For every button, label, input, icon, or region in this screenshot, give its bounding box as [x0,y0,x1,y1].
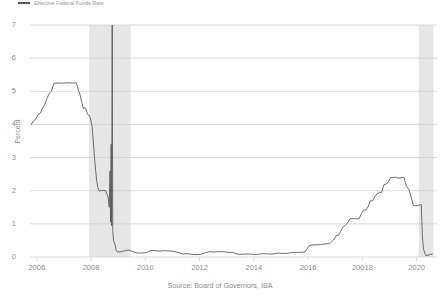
recession-band [419,25,434,257]
recession-band [89,25,131,257]
y-axis-tick-label: 5 [0,87,16,95]
y-axis-tick-label: 3 [0,154,16,162]
y-axis-tick-label: 4 [0,120,16,128]
y-axis-tick-label: 2 [0,187,16,195]
x-axis-tick-label: 2006 [28,263,45,272]
y-axis-tick-label: 0 [0,253,16,261]
chart-source-note: Source: Board of Governors, IBA [0,281,440,290]
y-axis-tick-label: 7 [0,21,16,29]
chart-plot-area [0,0,440,297]
chart-container: Effective Federal Funds Rate Percent 012… [0,0,440,297]
x-axis-tick-label: 20018 [352,263,373,272]
x-axis-tick-label: 2014 [246,263,263,272]
x-axis-tick-label: 2012 [191,263,208,272]
x-axis-tick-label: 2016 [300,263,317,272]
x-axis-tick-label: 2020 [408,263,425,272]
y-axis-tick-label: 6 [0,54,16,62]
y-axis-tick-label: 1 [0,220,16,228]
x-axis-tick-label: 2010 [137,263,154,272]
x-axis-tick-label: 2008 [83,263,100,272]
